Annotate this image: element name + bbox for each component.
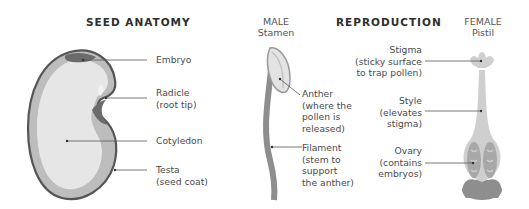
pistil-illustration [462,52,502,200]
testa-note: (seed coat) [156,176,208,188]
label-cotyledon: Cotyledon [156,135,203,147]
ovary-line-2: (contains [378,157,422,169]
radicle-note: (root tip) [156,99,197,111]
anther-line-4: released) [302,123,352,135]
stamen-illustration [266,48,290,200]
anther-line-3: pollen is [302,111,352,123]
filament-line-2: (stem to [302,154,354,166]
filament-line-4: the anther) [302,177,354,189]
label-radicle: Radicle (root tip) [156,87,197,110]
testa-text: Testa [156,164,208,176]
stigma-line-3: to trap pollen) [355,67,422,79]
style-line-1: Style [379,95,422,107]
male-label: MALE [256,16,296,27]
female-label: FEMALE [460,16,506,27]
stigma-line-1: Stigma [355,44,422,56]
pistil-label: Pistil [460,27,506,38]
female-heading: FEMALE Pistil [460,16,506,38]
filament-line-1: Filament [302,142,354,154]
male-heading: MALE Stamen [256,16,296,38]
filament-line-3: support [302,165,354,177]
label-style: Style (elevates stigma) [379,95,422,130]
anther-line-1: Anther [302,88,352,100]
ovary-line-3: embryos) [378,168,422,180]
style-line-2: (elevates [379,107,422,119]
style-line-3: stigma) [379,118,422,130]
seed-anatomy-title: SEED ANATOMY [86,16,191,28]
anther-line-2: (where the [302,100,352,112]
stamen-label: Stamen [256,27,296,38]
label-embryo: Embryo [156,54,191,66]
ovary-line-1: Ovary [378,145,422,157]
radicle-text: Radicle [156,87,197,99]
stigma-line-2: (sticky surface [355,56,422,68]
reproduction-title: REPRODUCTION [336,16,442,28]
label-testa: Testa (seed coat) [156,164,208,187]
seed-illustration [28,50,116,199]
label-stigma: Stigma (sticky surface to trap pollen) [355,44,422,79]
label-ovary: Ovary (contains embryos) [378,145,422,180]
label-anther: Anther (where the pollen is released) [302,88,352,134]
label-filament: Filament (stem to support the anther) [302,142,354,188]
